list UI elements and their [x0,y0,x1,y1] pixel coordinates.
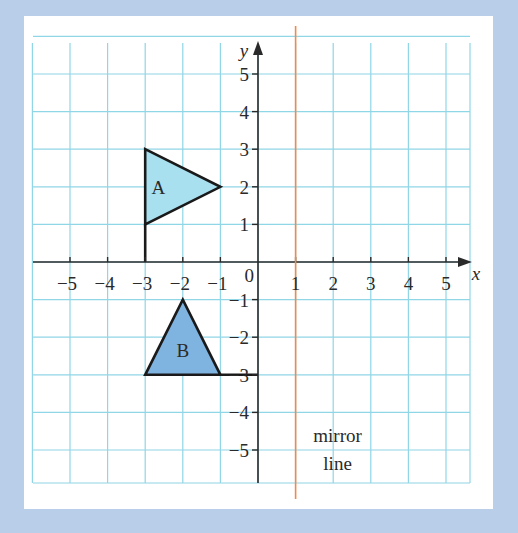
y-tick-label: 5 [240,64,250,85]
x-axis-label: x [471,263,481,284]
x-tick-label: 5 [441,273,451,294]
shape-label-b: B [176,340,189,361]
shape-label-a: A [151,177,165,198]
x-tick-label: 4 [404,273,414,294]
axes [33,41,472,483]
x-tick-label: 2 [328,273,338,294]
y-tick-label: 3 [240,139,250,160]
y-tick-label: 2 [240,177,250,198]
y-axis-label: y [238,40,249,61]
x-tick-label: −4 [94,273,115,294]
y-tick-label: −4 [229,402,250,423]
coordinate-grid: AB mirrorline −5−4−3−2−11234554321−1−2−3… [0,0,518,533]
x-tick-label: −2 [170,273,190,294]
grid-lines [32,36,470,483]
y-tick-label: −2 [229,327,249,348]
y-tick-label: 1 [240,214,250,235]
x-tick-label: 1 [291,273,301,294]
x-tick-label: 3 [366,273,376,294]
x-tick-label: −3 [132,273,152,294]
x-tick-label: −1 [207,273,227,294]
x-tick-label: −5 [57,273,77,294]
y-tick-label: 4 [240,102,250,123]
origin-label: 0 [245,265,255,286]
y-tick-label: −5 [229,440,249,461]
mirror-label-line2: line [323,453,352,474]
tick-labels: −5−4−3−2−11234554321−1−2−3−4−50xy [57,40,481,461]
y-tick-label: −1 [229,290,249,311]
y-tick-label: −3 [229,365,249,386]
mirror-label-line1: mirror [313,425,362,446]
y-axis-arrow-icon [253,41,263,55]
